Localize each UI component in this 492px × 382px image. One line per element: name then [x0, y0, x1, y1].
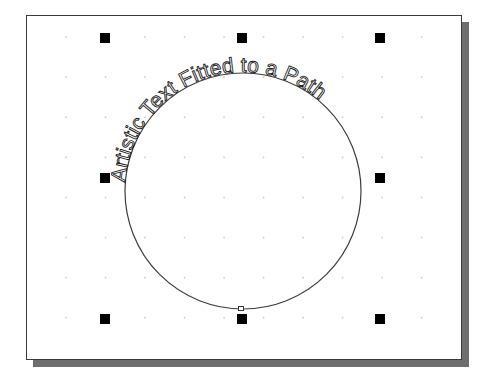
grid-dot — [421, 157, 423, 159]
grid-dot — [421, 36, 423, 38]
grid-dot — [421, 237, 423, 239]
grid-dot — [263, 197, 265, 199]
grid-dot — [421, 317, 423, 319]
grid-dot — [381, 117, 383, 119]
grid-dot — [144, 317, 146, 319]
handle-top-right[interactable] — [375, 33, 385, 43]
drawing-stage: Artistic Text Fitted to a Path — [0, 0, 492, 382]
handle-bottom-left[interactable] — [100, 314, 110, 324]
grid-dot — [144, 237, 146, 239]
handle-top-left[interactable] — [100, 33, 110, 43]
handle-middle-right[interactable] — [375, 173, 385, 183]
grid-dot — [223, 157, 225, 159]
grid-dot — [223, 36, 225, 38]
grid-dot — [65, 76, 67, 78]
grid-dot — [105, 157, 107, 159]
grid-dot — [105, 277, 107, 279]
grid-dot — [421, 277, 423, 279]
grid-dot — [65, 317, 67, 319]
grid-dot — [342, 157, 344, 159]
grid-dot — [184, 157, 186, 159]
grid-dot — [342, 277, 344, 279]
grid-dot — [302, 277, 304, 279]
grid-dot — [184, 117, 186, 119]
grid-dot — [65, 237, 67, 239]
grid-dot — [65, 197, 67, 199]
grid-dot — [144, 76, 146, 78]
grid-dot — [184, 277, 186, 279]
grid-dot — [223, 277, 225, 279]
grid-dot — [144, 277, 146, 279]
grid-dot — [65, 277, 67, 279]
grid-dot — [381, 237, 383, 239]
grid-dot — [184, 237, 186, 239]
grid-dot — [421, 197, 423, 199]
grid-dot — [263, 277, 265, 279]
grid-dot — [342, 237, 344, 239]
grid-dot — [223, 117, 225, 119]
grid-dot — [263, 237, 265, 239]
grid-dot — [302, 317, 304, 319]
grid-dot — [342, 317, 344, 319]
grid-dot — [184, 197, 186, 199]
artistic-text-object[interactable]: Artistic Text Fitted to a Path — [106, 53, 331, 183]
grid-dot — [144, 157, 146, 159]
handle-bottom-middle[interactable] — [237, 314, 247, 324]
grid-dot — [302, 157, 304, 159]
grid-dot — [105, 237, 107, 239]
grid-dot — [105, 117, 107, 119]
grid-dot — [302, 197, 304, 199]
grid-dot — [144, 36, 146, 38]
artistic-text-content: Artistic Text Fitted to a Path — [106, 53, 331, 183]
grid-dot — [342, 76, 344, 78]
grid-dot — [65, 117, 67, 119]
grid-dot — [302, 36, 304, 38]
handle-bottom-right[interactable] — [375, 314, 385, 324]
grid-dot — [184, 317, 186, 319]
grid-dot — [381, 197, 383, 199]
grid-dot — [263, 36, 265, 38]
grid-dot — [223, 237, 225, 239]
grid-dot — [144, 197, 146, 199]
grid-dot — [421, 117, 423, 119]
grid-dot — [65, 36, 67, 38]
grid-dot — [263, 157, 265, 159]
grid-dot — [263, 317, 265, 319]
path-node-marker[interactable] — [239, 307, 244, 311]
drawing-canvas[interactable]: Artistic Text Fitted to a Path — [0, 0, 492, 382]
grid-dot — [302, 117, 304, 119]
handle-middle-left[interactable] — [100, 173, 110, 183]
grid-dot — [223, 317, 225, 319]
grid-dot — [381, 157, 383, 159]
grid-dot — [302, 237, 304, 239]
grid-dot — [105, 76, 107, 78]
grid-dot — [184, 36, 186, 38]
grid-dot — [381, 76, 383, 78]
grid-dot — [381, 277, 383, 279]
handle-top-middle[interactable] — [237, 33, 247, 43]
grid-dot — [421, 76, 423, 78]
grid-dot — [342, 36, 344, 38]
grid-dot — [342, 197, 344, 199]
grid-dot — [65, 157, 67, 159]
grid-dot — [263, 117, 265, 119]
grid-dot — [342, 117, 344, 119]
grid-dot — [223, 197, 225, 199]
grid-dot — [105, 197, 107, 199]
